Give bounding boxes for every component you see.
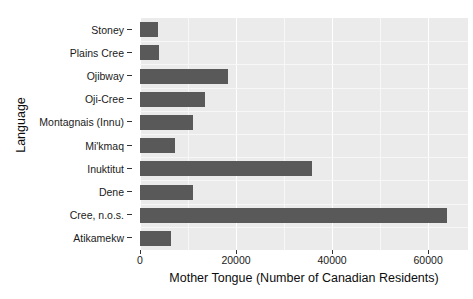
bar-row bbox=[140, 111, 468, 134]
y-tick-mark bbox=[127, 168, 132, 169]
y-tick-mark bbox=[127, 75, 132, 76]
x-axis-tick-label: 40000 bbox=[317, 254, 346, 266]
y-tick-mark bbox=[127, 214, 132, 215]
y-axis-tick-text: Stoney bbox=[91, 24, 124, 36]
y-axis-tick-text: Montagnais (Innu) bbox=[39, 116, 124, 128]
y-axis-tick-label: Ojibway bbox=[18, 64, 132, 87]
bar bbox=[140, 161, 312, 176]
y-axis-tick-text: Oji-Cree bbox=[85, 93, 124, 105]
y-axis-tick-label: Montagnais (Innu) bbox=[18, 111, 132, 134]
bar bbox=[140, 231, 171, 246]
clipped-header-text bbox=[24, 0, 454, 5]
y-axis-tick-text: Atikamekw bbox=[73, 232, 124, 244]
bar bbox=[140, 45, 159, 60]
bar-chart-figure: Language StoneyPlains CreeOjibwayOji-Cre… bbox=[0, 0, 473, 299]
bar-row bbox=[140, 41, 468, 64]
y-axis-tick-label: Plains Cree bbox=[18, 41, 132, 64]
y-tick-mark bbox=[127, 29, 132, 30]
bar-row bbox=[140, 227, 468, 250]
y-axis-tick-labels: StoneyPlains CreeOjibwayOji-CreeMontagna… bbox=[18, 18, 132, 250]
x-axis-tick-label: 20000 bbox=[221, 254, 250, 266]
bar bbox=[140, 208, 447, 223]
y-axis-tick-label: Dene bbox=[18, 180, 132, 203]
bar-row bbox=[140, 180, 468, 203]
y-tick-mark bbox=[127, 52, 132, 53]
y-axis-tick-text: Dene bbox=[99, 186, 124, 198]
y-tick-mark bbox=[127, 121, 132, 122]
y-tick-mark bbox=[127, 145, 132, 146]
bar-row bbox=[140, 204, 468, 227]
y-axis-tick-text: Mi'kmaq bbox=[85, 140, 124, 152]
bar-row bbox=[140, 64, 468, 87]
bar bbox=[140, 22, 158, 37]
bar bbox=[140, 138, 175, 153]
y-tick-mark bbox=[127, 191, 132, 192]
x-axis-tick-label: 60000 bbox=[414, 254, 443, 266]
y-axis-tick-text: Ojibway bbox=[87, 70, 124, 82]
plot-panel bbox=[140, 18, 468, 250]
bar-row bbox=[140, 88, 468, 111]
y-axis-tick-label: Oji-Cree bbox=[18, 88, 132, 111]
y-axis-tick-text: Plains Cree bbox=[70, 47, 124, 59]
y-tick-mark bbox=[127, 237, 132, 238]
x-axis-title: Mother Tongue (Number of Canadian Reside… bbox=[140, 271, 468, 285]
bar-row bbox=[140, 18, 468, 41]
y-axis-tick-text: Cree, n.o.s. bbox=[70, 209, 124, 221]
bar-series bbox=[140, 18, 468, 250]
bar bbox=[140, 69, 228, 84]
y-tick-mark bbox=[127, 98, 132, 99]
y-axis-tick-label: Atikamekw bbox=[18, 227, 132, 250]
bar-row bbox=[140, 157, 468, 180]
y-axis-tick-text: Inuktitut bbox=[87, 163, 124, 175]
x-axis-ticks: 0200004000060000 bbox=[140, 250, 468, 266]
bar-row bbox=[140, 134, 468, 157]
y-axis-tick-label: Inuktitut bbox=[18, 157, 132, 180]
y-axis-tick-label: Cree, n.o.s. bbox=[18, 204, 132, 227]
x-axis-tick-label: 0 bbox=[137, 254, 143, 266]
y-axis-tick-label: Mi'kmaq bbox=[18, 134, 132, 157]
y-axis-tick-label: Stoney bbox=[18, 18, 132, 41]
bar bbox=[140, 115, 193, 130]
bar bbox=[140, 185, 193, 200]
bar bbox=[140, 92, 205, 107]
